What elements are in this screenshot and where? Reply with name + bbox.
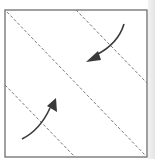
origami-diagram — [0, 0, 155, 159]
